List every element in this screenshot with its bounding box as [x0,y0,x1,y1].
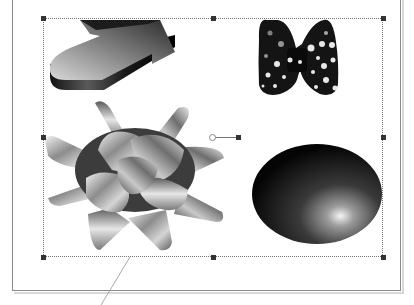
handle-bottom-left[interactable] [41,255,46,260]
handle-middle-right[interactable] [381,135,386,140]
handle-top-left[interactable] [41,16,46,21]
rotation-handle-anchor[interactable] [236,135,241,140]
handle-bottom-center[interactable] [211,255,216,260]
handle-top-right[interactable] [381,16,386,21]
handle-top-center[interactable] [211,16,216,21]
handle-middle-left[interactable] [41,135,46,140]
handle-bottom-right[interactable] [381,255,386,260]
callout-leader-line [101,257,130,305]
rotation-handle-line [215,137,237,138]
rotation-handle[interactable] [209,134,216,141]
